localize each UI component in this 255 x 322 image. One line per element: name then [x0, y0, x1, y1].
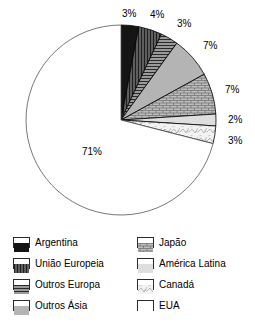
legend-item-outros-europa[interactable]: Outros Europa — [13, 274, 104, 295]
legend-item-américa-latina[interactable]: América Latina — [137, 253, 226, 274]
legend-label: América Latina — [159, 258, 226, 269]
pie-percentage-label-eua: 71% — [82, 146, 102, 157]
pie-percentage-label-união-europeia: 4% — [150, 9, 164, 20]
legend-item-união-europeia[interactable]: União Europeia — [13, 253, 104, 274]
legend-label: União Europeia — [35, 258, 104, 269]
legend-item-eua[interactable]: EUA — [137, 295, 226, 316]
legend-label: Outros Europa — [35, 279, 100, 290]
chart-plot-area: 3%4%3%7%7%2%3%71% — [0, 0, 255, 228]
pie-percentage-label-outros-europa: 3% — [177, 18, 191, 29]
legend-item-japão[interactable]: Japão — [137, 232, 226, 253]
legend-column-left: ArgentinaUnião EuropeiaOutros EuropaOutr… — [13, 232, 104, 316]
pie-slice-group — [26, 25, 216, 215]
legend-swatch-icon — [13, 237, 30, 248]
legend-label: EUA — [159, 300, 180, 311]
legend-swatch-icon — [137, 237, 154, 248]
legend-item-outros-ásia[interactable]: Outros Ásia — [13, 295, 104, 316]
legend-label: Canadá — [159, 279, 194, 290]
pie-chart-svg — [0, 0, 255, 228]
legend-label: Argentina — [35, 237, 78, 248]
legend-item-canadá[interactable]: Canadá — [137, 274, 226, 295]
legend-swatch-icon — [137, 300, 154, 311]
legend-column-right: JapãoAmérica LatinaCanadáEUA — [137, 232, 226, 316]
legend-swatch-icon — [13, 258, 30, 269]
pie-percentage-label-canadá: 3% — [228, 135, 242, 146]
legend-label: Japão — [159, 237, 186, 248]
legend-label: Outros Ásia — [35, 300, 87, 311]
legend-swatch-icon — [137, 279, 154, 290]
legend-swatch-icon — [13, 300, 30, 311]
pie-percentage-label-japão: 7% — [225, 84, 239, 95]
pie-chart-figure: 3%4%3%7%7%2%3%71% ArgentinaUnião Europei… — [0, 0, 255, 322]
pie-percentage-label-américa-latina: 2% — [228, 114, 242, 125]
legend-item-argentina[interactable]: Argentina — [13, 232, 104, 253]
pie-percentage-label-outros-ásia: 7% — [203, 40, 217, 51]
chart-legend: ArgentinaUnião EuropeiaOutros EuropaOutr… — [0, 232, 255, 322]
legend-swatch-icon — [137, 258, 154, 269]
pie-percentage-label-argentina: 3% — [122, 8, 136, 19]
legend-swatch-icon — [13, 279, 30, 290]
